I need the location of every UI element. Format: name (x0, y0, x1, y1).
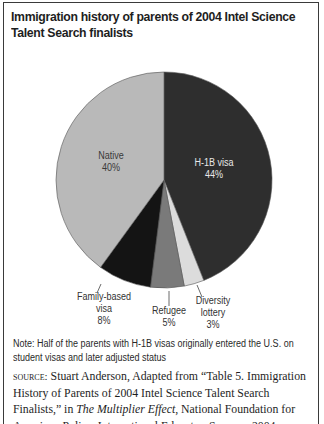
slice-label-h1b: H-1B visa44% (194, 157, 233, 181)
chart-source: source: Stuart Anderson, Adapted from “T… (13, 368, 313, 424)
slice-label-diversity: Diversitylottery3% (196, 295, 231, 331)
slice-label-native: Native40% (98, 150, 124, 174)
source-label: source: (13, 370, 48, 382)
slice-label-refugee: Refugee5% (152, 305, 186, 329)
chart-note: Note: Half of the parents with H-1B visa… (13, 337, 319, 365)
slice-label-family: Family-basedvisa8% (77, 291, 131, 327)
